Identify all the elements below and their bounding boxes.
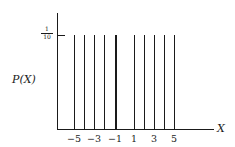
y-tick-label: 1 10 (41, 26, 53, 40)
y-axis (57, 13, 58, 130)
y-tick-one-tenth (57, 35, 65, 36)
x-tick-label: 3 (146, 133, 162, 144)
x-tick-label: 5 (166, 133, 182, 144)
bar-x-neg3 (94, 35, 96, 129)
y-tick-denominator: 10 (41, 34, 53, 41)
bar-x-3 (154, 35, 156, 129)
x-tick-label: −1 (107, 133, 123, 144)
bar-x-2 (144, 35, 146, 129)
x-tick-label: −5 (66, 133, 82, 144)
bar-x-neg2 (104, 35, 106, 129)
bar-x-neg1 (115, 35, 117, 129)
bar-x-neg5 (74, 35, 76, 129)
x-tick-label: −3 (86, 133, 102, 144)
x-axis-label: X (217, 122, 225, 135)
bar-x-1 (134, 35, 136, 129)
y-axis-label: P(X) (12, 73, 36, 86)
x-axis (57, 129, 214, 130)
bar-x-5 (174, 35, 176, 129)
bar-x-4 (164, 35, 166, 129)
bar-x-neg4 (84, 35, 86, 129)
x-tick-label: 1 (126, 133, 142, 144)
